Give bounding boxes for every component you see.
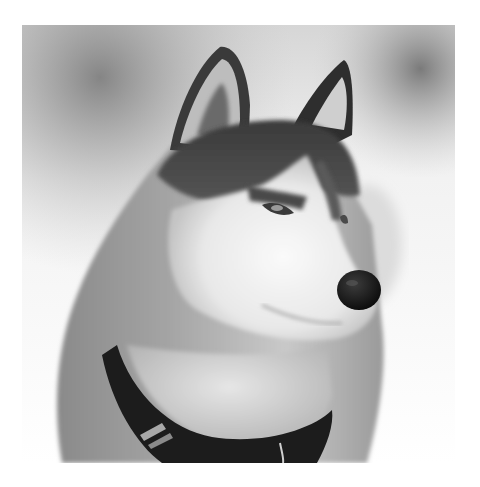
husky-image: [22, 25, 455, 463]
dog-nose: [337, 270, 381, 310]
husky-photo: [22, 25, 455, 463]
